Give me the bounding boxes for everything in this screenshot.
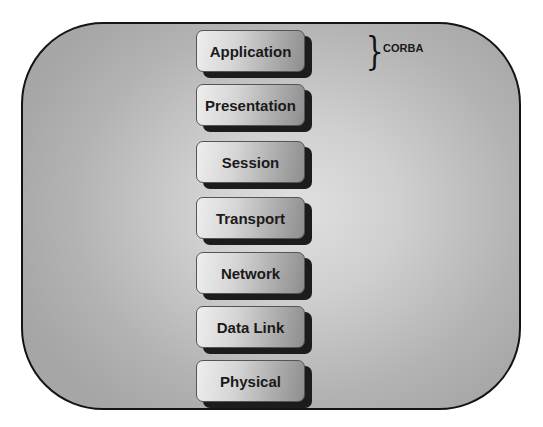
layer-application[interactable]: Application (196, 30, 305, 72)
corba-annotation: CORBA (383, 42, 423, 54)
layer-presentation[interactable]: Presentation (196, 84, 305, 126)
layer-physical-label[interactable]: Physical (196, 360, 305, 402)
curly-brace-icon: } (366, 30, 384, 70)
layer-data-link[interactable]: Data Link (196, 306, 305, 348)
layer-application-label[interactable]: Application (196, 30, 305, 72)
layer-transport[interactable]: Transport (196, 197, 305, 239)
layer-physical[interactable]: Physical (196, 360, 305, 402)
layer-transport-label[interactable]: Transport (196, 197, 305, 239)
layer-session[interactable]: Session (196, 141, 305, 183)
layer-session-label[interactable]: Session (196, 141, 305, 183)
layer-network-label[interactable]: Network (196, 252, 305, 294)
layer-data-link-label[interactable]: Data Link (196, 306, 305, 348)
layer-presentation-label[interactable]: Presentation (196, 84, 305, 126)
layer-network[interactable]: Network (196, 252, 305, 294)
